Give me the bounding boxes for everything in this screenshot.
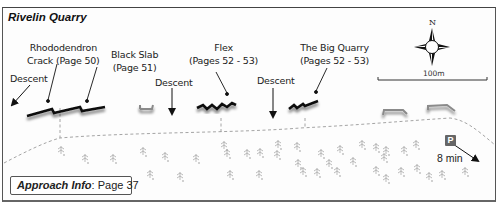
walk-time: 8 min xyxy=(437,152,463,164)
approach-info-label: Approach Info xyxy=(17,179,92,191)
label-descent-left: Descent xyxy=(10,72,48,85)
approach-info-page: : Page 37 xyxy=(92,179,139,191)
scale-label: 100m xyxy=(423,69,445,78)
north-label: N xyxy=(429,18,436,27)
approach-info-box: Approach Info: Page 37 xyxy=(10,176,132,195)
label-descent-right: Descent xyxy=(257,74,295,87)
parking-icon: P xyxy=(445,135,456,146)
label-flex: Flex (Pages 52 - 53) xyxy=(189,41,258,67)
label-rhododendron-crack: Rhododendron Crack (Page 50) xyxy=(27,41,100,67)
label-black-slab: Black Slab (Page 51) xyxy=(111,48,158,74)
map-title: Rivelin Quarry xyxy=(8,11,87,23)
label-big-quarry: The Big Quarry (Pages 52 - 53) xyxy=(300,41,369,67)
label-descent-mid: Descent xyxy=(155,76,193,89)
